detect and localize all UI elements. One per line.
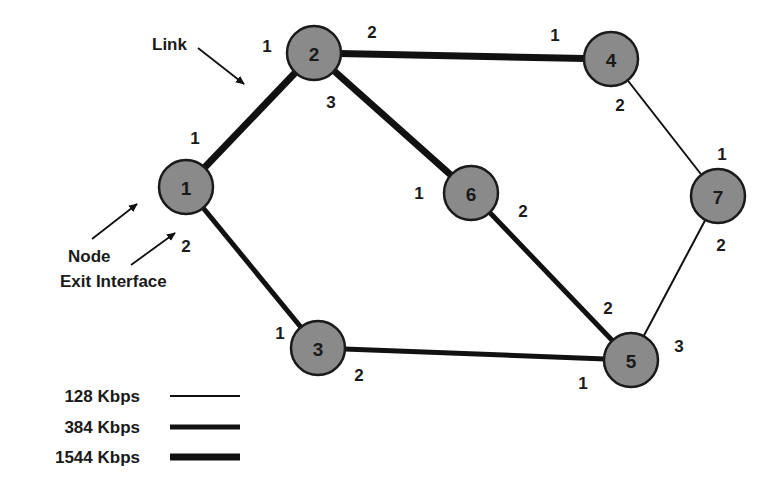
- interface-label-node7-2: 2: [716, 236, 725, 255]
- legend-item-384: 384 Kbps: [64, 418, 240, 437]
- annotations-layer: Link Node Exit Interface: [60, 35, 187, 291]
- node-5: 5: [604, 333, 658, 387]
- node-label: 6: [466, 184, 477, 205]
- nodes-layer: 1234567: [159, 26, 745, 387]
- network-diagram: 1234567 1212312121212123 Link Node Exit …: [0, 0, 773, 497]
- bandwidth-legend: 128 Kbps 384 Kbps 1544 Kbps: [55, 387, 240, 467]
- annotation-exit-interface: Exit Interface: [60, 272, 167, 291]
- exit-interface-pointer-arrow-icon: [131, 233, 175, 265]
- link-1-3: [186, 187, 318, 348]
- node-6: 6: [444, 166, 498, 220]
- interface-label-node2-3: 3: [326, 93, 335, 112]
- legend-label: 128 Kbps: [64, 387, 140, 406]
- interface-label-node3-2: 2: [354, 366, 363, 385]
- node-label: 5: [626, 351, 637, 372]
- node-label: 1: [181, 178, 192, 199]
- interface-label-node2-1: 1: [262, 37, 271, 56]
- link-2-6: [314, 53, 471, 193]
- interface-label-node2-2: 2: [367, 23, 376, 42]
- link-pointer-arrow-icon: [198, 48, 244, 84]
- interface-label-node1-1: 1: [190, 129, 199, 148]
- interface-label-node4-2: 2: [615, 96, 624, 115]
- interface-label-node5-3: 3: [674, 337, 683, 356]
- node-7: 7: [691, 169, 745, 223]
- link-3-5: [318, 348, 631, 360]
- interface-label-node6-2: 2: [518, 202, 527, 221]
- interface-label-node3-1: 1: [275, 324, 284, 343]
- interface-label-node4-1: 1: [550, 26, 559, 45]
- node-4: 4: [584, 32, 638, 86]
- node-pointer-arrow-icon: [92, 204, 137, 239]
- legend-item-1544: 1544 Kbps: [55, 448, 240, 467]
- node-label: 7: [713, 187, 724, 208]
- node-1: 1: [159, 160, 213, 214]
- link-6-5: [471, 193, 631, 360]
- legend-item-128: 128 Kbps: [64, 387, 240, 406]
- node-3: 3: [291, 321, 345, 375]
- interface-label-node7-1: 1: [717, 145, 726, 164]
- annotation-node: Node: [68, 247, 111, 266]
- interface-label-node6-1: 1: [414, 184, 423, 203]
- node-label: 2: [309, 44, 320, 65]
- interface-label-node5-1: 1: [578, 374, 587, 393]
- node-label: 3: [313, 339, 324, 360]
- legend-label: 1544 Kbps: [55, 448, 140, 467]
- interface-label-node5-2: 2: [603, 299, 612, 318]
- interface-label-node1-2: 2: [181, 237, 190, 256]
- node-2: 2: [287, 26, 341, 80]
- legend-label: 384 Kbps: [64, 418, 140, 437]
- annotation-link: Link: [152, 35, 187, 54]
- link-2-4: [314, 53, 611, 59]
- node-label: 4: [606, 50, 617, 71]
